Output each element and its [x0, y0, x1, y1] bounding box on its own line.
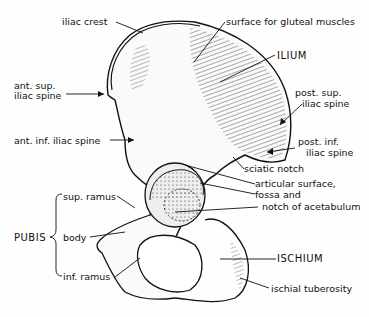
hip-bone-diagram: iliac crest surface for gluteal muscles … — [0, 0, 369, 317]
label-post-sup-2: iliac spine — [302, 98, 349, 109]
label-ischium: ISCHIUM — [277, 253, 323, 264]
label-gluteal-surface: surface for gluteal muscles — [226, 16, 355, 27]
label-inf-ramus: inf. ramus — [63, 271, 110, 282]
label-ilium: ILIUM — [277, 50, 307, 61]
hip-bone-drawing — [0, 0, 369, 317]
label-articular-1: articular surface, — [255, 178, 336, 189]
label-iliac-crest: iliac crest — [62, 16, 107, 27]
label-sup-ramus: sup. ramus — [63, 191, 116, 202]
label-ant-inf: ant. inf. iliac spine — [14, 135, 100, 146]
label-body: body — [63, 232, 87, 243]
label-post-sup-1: post. sup. — [295, 87, 342, 98]
label-articular-3: notch of acetabulum — [262, 201, 360, 212]
label-ant-sup-2: iliac spine — [14, 90, 61, 101]
label-pubis: PUBIS — [14, 232, 46, 243]
label-articular-2: fossa and — [255, 189, 301, 200]
label-ischial-tuberosity: ischial tuberosity — [271, 283, 352, 294]
label-post-inf-2: iliac spine — [306, 147, 353, 158]
label-post-inf-1: post. inf. — [298, 136, 339, 147]
label-sciatic-notch: sciatic notch — [244, 163, 304, 174]
